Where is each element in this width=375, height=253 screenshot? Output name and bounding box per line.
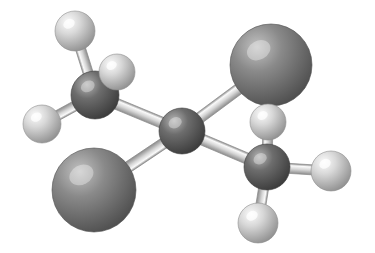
molecule-canvas [0,0,375,253]
atom-carbon-center [159,108,205,154]
molecule-figure: Ball-and-stick molecular model [0,0,375,253]
sphere-h [55,11,95,51]
sphere-h [311,151,351,191]
atom-carbon-lower-right [244,144,290,190]
sphere-x [52,148,136,232]
sphere-h [250,104,286,140]
atom-hydrogen-left [23,105,61,143]
atom-halogen-lower-left [52,148,136,232]
sphere-h [23,105,61,143]
atom-hydrogen-right [311,151,351,191]
atom-halogen-upper-right [230,24,312,106]
atom-hydrogen-top-left [55,11,95,51]
sphere-x [230,24,312,106]
sphere-h [99,54,135,90]
sphere-h [238,203,278,243]
atom-hydrogen-upper-mid [99,54,135,90]
atom-hydrogen-upper-right-inner [250,104,286,140]
sphere-c [244,144,290,190]
atom-hydrogen-bottom [238,203,278,243]
sphere-c [159,108,205,154]
